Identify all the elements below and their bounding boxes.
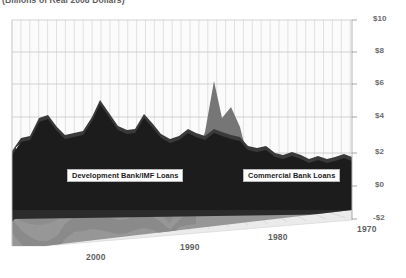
series-label-commercial-bank-loans: Commercial Bank Loans — [243, 169, 340, 182]
series-label-development-bank-imf-loans: Development Bank/IMF Loans — [67, 169, 183, 182]
chart-figure: (Billions of Real 2008 Dollars) — [0, 0, 406, 278]
y-axis-tick-6: $6 — [375, 78, 384, 87]
x-axis-tick-1970: 1970 — [357, 224, 377, 234]
x-axis-tick-2000: 2000 — [86, 252, 106, 262]
y-axis-tick-8: $8 — [375, 46, 384, 55]
chart-svg — [0, 14, 406, 264]
x-axis-tick-1980: 1980 — [268, 232, 288, 242]
chart-subtitle: (Billions of Real 2008 Dollars) — [2, 0, 125, 5]
chart-plot-area — [0, 14, 406, 264]
chart-y-tickmarks — [352, 20, 357, 219]
y-axis-tick-10: $10 — [373, 14, 387, 23]
y-axis-tick-neg2: -$2 — [373, 213, 385, 222]
y-axis-tick-2: $2 — [375, 147, 384, 156]
x-axis-tick-1990: 1990 — [180, 242, 200, 252]
y-axis-tick-4: $4 — [375, 111, 384, 120]
y-axis-tick-0: $0 — [375, 180, 384, 189]
